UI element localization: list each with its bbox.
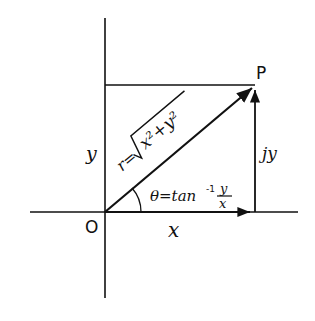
- origin-label: O: [85, 217, 98, 237]
- r-formula: r= x²+y²: [108, 91, 201, 175]
- svg-text:y: y: [219, 181, 228, 196]
- svg-text:x²+y²: x²+y²: [135, 107, 184, 153]
- x-label: x: [168, 218, 179, 242]
- point-label: P: [256, 63, 266, 83]
- svg-text:x: x: [219, 196, 227, 211]
- svg-text:-1: -1: [206, 184, 215, 194]
- theta-arc: [132, 188, 141, 212]
- svg-text:θ=tan: θ=tan: [150, 187, 196, 205]
- y-label: y: [85, 142, 97, 164]
- complex-plane-diagram: P O x y jy r= x²+y² θ=tan -1 y x: [0, 0, 315, 321]
- theta-formula: θ=tan -1 y x: [150, 181, 232, 211]
- imag-label: jy: [258, 143, 277, 163]
- svg-text:r=: r=: [112, 147, 140, 175]
